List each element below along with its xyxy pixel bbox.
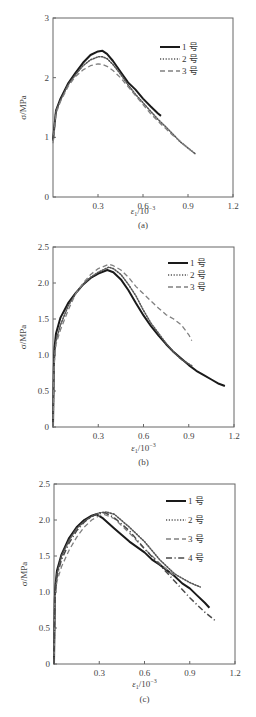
x-axis-label: ε1/10−3 xyxy=(131,205,155,217)
y-tick-label: 2.0 xyxy=(39,515,51,525)
y-tick-label: 0.5 xyxy=(39,623,51,633)
y-tick-label: 2.5 xyxy=(39,479,51,489)
legend-label-1: 1 号 xyxy=(188,496,204,506)
stress-strain-chart-b: 0.30.60.91.200.51.01.52.02.5σ/MPaε1/10−3… xyxy=(0,232,256,468)
stress-strain-chart-c: 0.30.60.91.200.51.01.52.02.5σ/MPaε1/10−3… xyxy=(0,468,256,717)
y-tick-label: 0 xyxy=(45,192,50,202)
series-line-1 xyxy=(53,51,161,141)
x-tick-label: 0.3 xyxy=(92,201,104,211)
x-tick-label: 0.3 xyxy=(94,668,106,678)
y-tick-label: 2.0 xyxy=(38,278,50,288)
panel-label: (b) xyxy=(138,457,149,467)
x-tick-label: 0.9 xyxy=(184,668,196,678)
panel-label: (c) xyxy=(140,694,150,704)
y-axis-label: σ/MPa xyxy=(19,562,29,586)
legend-label-1: 1 号 xyxy=(182,42,198,52)
x-tick-label: 0.9 xyxy=(183,431,195,441)
x-tick-label: 0.9 xyxy=(182,201,194,211)
series-line-2 xyxy=(53,57,196,154)
y-tick-label: 1.5 xyxy=(39,551,51,561)
y-tick-label: 2.5 xyxy=(38,242,50,252)
y-tick-label: 1 xyxy=(45,132,50,142)
legend-label-1: 1 号 xyxy=(190,258,206,268)
x-tick-label: 1.2 xyxy=(229,668,240,678)
x-tick-label: 1.2 xyxy=(228,431,239,441)
series-line-3 xyxy=(54,514,175,664)
y-axis-label: σ/MPa xyxy=(18,325,28,349)
series-line-3 xyxy=(53,264,192,427)
legend-label-3: 3 号 xyxy=(188,534,204,544)
y-tick-label: 0.5 xyxy=(38,386,50,396)
plot-frame xyxy=(54,484,235,664)
chart-panel-a: 0.30.60.91.20123σ/MPaε1/10−3(a)1 号2 号3 号 xyxy=(0,0,256,232)
x-axis-label: ε1/10−3 xyxy=(131,442,155,454)
x-tick-label: 0.6 xyxy=(139,668,151,678)
x-tick-label: 0.6 xyxy=(138,431,150,441)
stress-strain-chart-a: 0.30.60.91.20123σ/MPaε1/10−3(a)1 号2 号3 号 xyxy=(0,0,256,232)
chart-panel-b: 0.30.60.91.200.51.01.52.02.5σ/MPaε1/10−3… xyxy=(0,232,256,468)
y-tick-label: 0 xyxy=(45,422,50,432)
x-tick-label: 0.3 xyxy=(93,431,105,441)
series-line-1 xyxy=(53,270,225,427)
y-tick-label: 1.5 xyxy=(38,314,50,324)
y-tick-label: 1.0 xyxy=(38,350,50,360)
legend-label-2: 2 号 xyxy=(188,515,204,525)
series-line-2 xyxy=(53,267,192,427)
chart-panel-c: 0.30.60.91.200.51.01.52.02.5σ/MPaε1/10−3… xyxy=(0,468,256,717)
x-axis-label: ε1/10−3 xyxy=(132,678,156,690)
legend-label-4: 4 号 xyxy=(188,553,204,563)
y-axis-label: σ/MPa xyxy=(18,95,28,119)
x-tick-label: 1.2 xyxy=(227,201,238,211)
y-tick-label: 2 xyxy=(45,73,50,83)
legend-label-2: 2 号 xyxy=(190,270,206,280)
legend-label-2: 2 号 xyxy=(182,54,198,64)
y-tick-label: 3 xyxy=(45,13,50,23)
y-tick-label: 0 xyxy=(46,659,51,669)
plot-frame xyxy=(53,18,233,197)
series-line-2 xyxy=(54,512,200,664)
legend-label-3: 3 号 xyxy=(190,282,206,292)
y-tick-label: 1.0 xyxy=(39,587,51,597)
legend-label-3: 3 号 xyxy=(182,66,198,76)
panel-label: (a) xyxy=(138,220,148,230)
plot-frame xyxy=(53,247,234,427)
